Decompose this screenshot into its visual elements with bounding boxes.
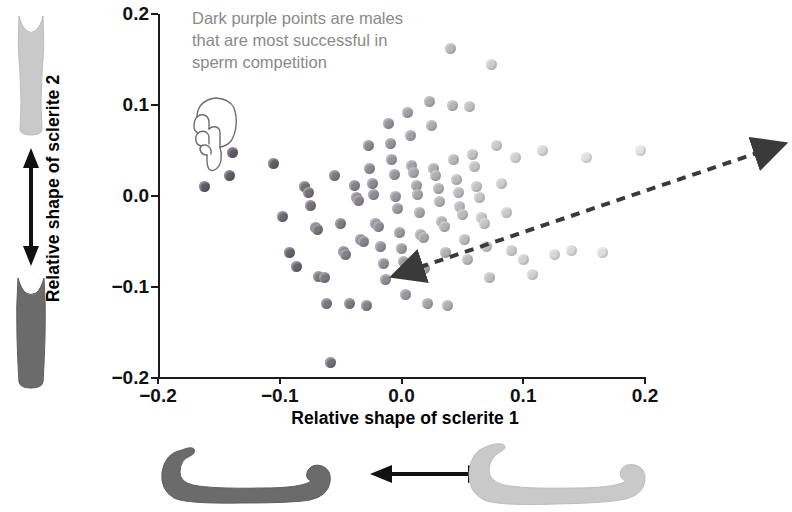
x-tick-label: −0.1 bbox=[261, 385, 299, 407]
y-tick-label: 0.2 bbox=[123, 3, 149, 25]
data-point bbox=[474, 192, 485, 203]
x-tick-label: 0.0 bbox=[388, 385, 414, 407]
data-point bbox=[448, 154, 459, 165]
data-point bbox=[380, 274, 391, 285]
data-point bbox=[400, 289, 411, 300]
data-point bbox=[484, 272, 495, 283]
data-point bbox=[353, 195, 364, 206]
data-point bbox=[527, 269, 538, 280]
y-tick-mark bbox=[151, 104, 158, 106]
data-point bbox=[329, 170, 340, 181]
data-point bbox=[361, 300, 372, 311]
data-point bbox=[402, 107, 413, 118]
y-axis-line bbox=[158, 14, 160, 379]
data-point bbox=[312, 224, 323, 235]
data-point bbox=[457, 209, 468, 220]
data-point bbox=[389, 169, 400, 180]
data-point bbox=[340, 249, 351, 260]
data-point bbox=[506, 245, 517, 256]
x-tick-mark bbox=[522, 377, 524, 384]
data-point bbox=[419, 263, 430, 274]
data-point bbox=[471, 181, 482, 192]
data-point bbox=[451, 174, 462, 185]
y-tick-label: 0.0 bbox=[123, 185, 149, 207]
data-point bbox=[396, 243, 407, 254]
data-point bbox=[368, 189, 379, 200]
x-tick-mark bbox=[279, 377, 281, 384]
y-tick-label: −0.1 bbox=[111, 276, 149, 298]
data-point bbox=[277, 211, 288, 222]
annotation-line-3: sperm competition bbox=[192, 52, 454, 74]
data-point bbox=[479, 218, 490, 229]
data-point bbox=[434, 196, 445, 207]
data-point bbox=[467, 149, 478, 160]
data-point bbox=[549, 249, 560, 260]
data-point bbox=[433, 183, 444, 194]
x-tick-label: 0.1 bbox=[510, 385, 536, 407]
data-point bbox=[319, 272, 330, 283]
annotation-text: Dark purple points are males that are mo… bbox=[192, 8, 454, 74]
x-tick-mark bbox=[157, 377, 159, 384]
data-point bbox=[469, 161, 480, 172]
annotation-line-1: Dark purple points are males bbox=[192, 8, 454, 30]
data-point bbox=[481, 241, 492, 252]
data-point bbox=[349, 180, 360, 191]
data-point bbox=[325, 357, 336, 368]
data-point bbox=[284, 247, 295, 258]
data-point bbox=[398, 256, 409, 267]
vertical-double-arrow bbox=[22, 148, 40, 266]
data-point bbox=[426, 120, 437, 131]
data-point bbox=[501, 207, 512, 218]
data-point bbox=[422, 298, 433, 309]
data-point bbox=[510, 152, 521, 163]
annotation-line-2: that are most successful in bbox=[192, 30, 454, 52]
x-tick-label: −0.2 bbox=[139, 385, 177, 407]
data-point bbox=[418, 232, 429, 243]
data-point bbox=[378, 258, 389, 269]
data-point bbox=[566, 245, 577, 256]
data-point bbox=[491, 140, 502, 151]
data-point bbox=[364, 163, 375, 174]
data-point bbox=[635, 145, 646, 156]
data-point bbox=[375, 241, 386, 252]
x-tick-mark bbox=[644, 377, 646, 384]
data-point bbox=[383, 118, 394, 129]
data-point bbox=[367, 178, 378, 189]
data-point bbox=[268, 158, 279, 169]
data-point bbox=[581, 152, 592, 163]
data-point bbox=[386, 154, 397, 165]
data-point bbox=[447, 100, 458, 111]
sclerite-1-dark-shape-icon bbox=[152, 440, 347, 510]
data-point bbox=[303, 187, 314, 198]
data-point bbox=[430, 170, 441, 181]
data-point bbox=[597, 247, 608, 258]
data-point bbox=[442, 300, 453, 311]
data-point bbox=[412, 189, 423, 200]
y-tick-mark bbox=[151, 195, 158, 197]
data-point bbox=[291, 261, 302, 272]
data-point bbox=[464, 101, 475, 112]
data-point bbox=[394, 227, 405, 238]
data-point bbox=[405, 130, 416, 141]
data-point bbox=[321, 298, 332, 309]
data-point bbox=[462, 254, 473, 265]
x-tick-label: 0.2 bbox=[632, 385, 658, 407]
y-tick-mark bbox=[151, 286, 158, 288]
data-point bbox=[363, 140, 374, 151]
data-point bbox=[424, 96, 435, 107]
data-point bbox=[537, 145, 548, 156]
data-point bbox=[385, 138, 396, 149]
data-point bbox=[392, 203, 403, 214]
data-point bbox=[373, 221, 384, 232]
data-point bbox=[358, 236, 369, 247]
data-point bbox=[518, 254, 529, 265]
data-point bbox=[408, 167, 419, 178]
data-point bbox=[335, 218, 346, 229]
data-point bbox=[344, 298, 355, 309]
sclerite-1-illustration-row bbox=[0, 438, 670, 512]
data-point bbox=[440, 247, 451, 258]
x-tick-mark bbox=[401, 377, 403, 384]
data-point bbox=[390, 191, 401, 202]
pointing-hand-down-icon bbox=[186, 96, 244, 176]
